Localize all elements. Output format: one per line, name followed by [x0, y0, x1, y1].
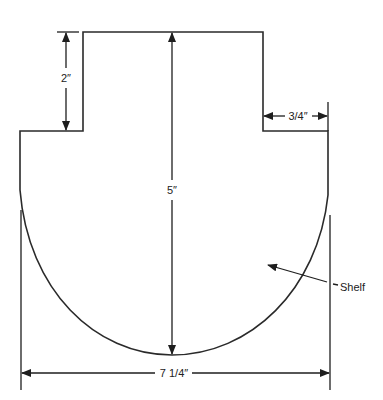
shelf-label: Shelf [340, 281, 366, 293]
total-width-label: 7 1/4″ [160, 367, 188, 379]
shelf-leader-arrow [268, 265, 327, 282]
shelf-leader-tick [333, 284, 338, 285]
top-height-label: 2″ [61, 72, 71, 84]
shelf-diagram: 2″ 5″ 3/4″ 7 1/4″ Shelf [0, 0, 383, 400]
shoulder-width-label: 3/4″ [288, 110, 307, 122]
total-height-label: 5″ [167, 184, 177, 196]
